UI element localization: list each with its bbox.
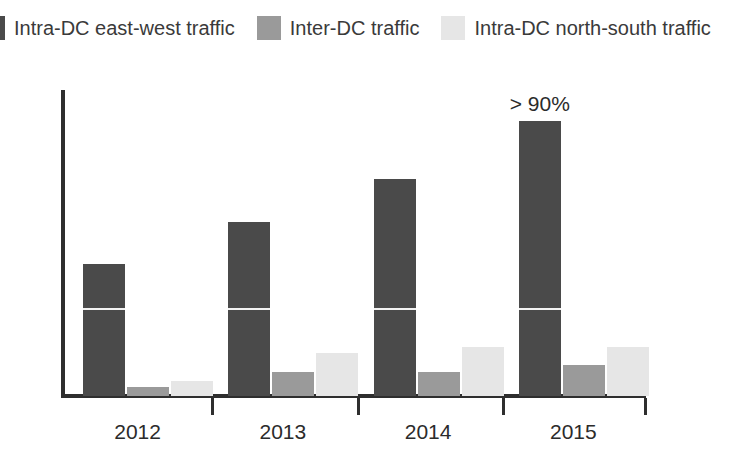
bar xyxy=(316,353,358,396)
bar xyxy=(272,372,314,396)
x-axis-label: 2012 xyxy=(114,420,161,444)
bar xyxy=(228,222,270,396)
x-axis-label: 2014 xyxy=(405,420,452,444)
bar xyxy=(83,264,125,396)
bar-annotation: > 90% xyxy=(510,92,570,116)
bar-divider-line xyxy=(83,308,125,310)
bar-chart: 2012201320142015 > 90% xyxy=(0,0,737,460)
x-axis-tick xyxy=(357,398,360,415)
bar-divider-line xyxy=(374,308,416,310)
bar xyxy=(418,372,460,396)
bar xyxy=(519,121,561,396)
bar xyxy=(607,347,649,396)
bar xyxy=(171,381,213,396)
x-axis-tick xyxy=(211,398,214,415)
x-axis-label: 2013 xyxy=(260,420,307,444)
x-axis-tick xyxy=(502,398,505,415)
bar xyxy=(127,387,169,396)
x-axis-tick-end xyxy=(644,398,647,415)
x-axis-label: 2015 xyxy=(550,420,597,444)
bar xyxy=(563,365,605,396)
bar xyxy=(374,179,416,396)
bar-divider-line xyxy=(519,308,561,310)
y-axis-line xyxy=(61,90,65,398)
bar-divider-line xyxy=(228,308,270,310)
bar xyxy=(462,347,504,396)
